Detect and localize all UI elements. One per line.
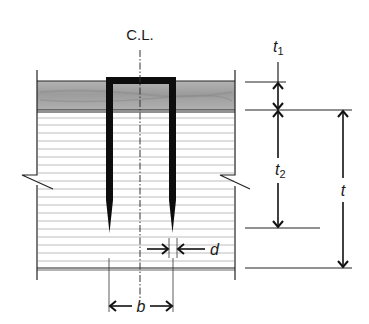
staple-cross-section-diagram: C.L. t1 t2 t — [0, 0, 369, 324]
t2-dimension: t2 — [245, 111, 320, 228]
t-label: t — [341, 182, 346, 199]
b-label: b — [137, 298, 146, 315]
lower-layer — [38, 118, 234, 261]
t1-label: t1 — [273, 38, 284, 57]
centerline-label: C.L. — [126, 26, 154, 43]
d-dimension: d — [147, 238, 220, 258]
d-label: d — [210, 241, 220, 258]
top-layer — [37, 81, 235, 112]
t-dimension: t — [245, 111, 352, 268]
t1-dimension: t1 — [245, 38, 352, 110]
t2-label: t2 — [275, 161, 286, 180]
b-dimension: b — [109, 258, 173, 315]
